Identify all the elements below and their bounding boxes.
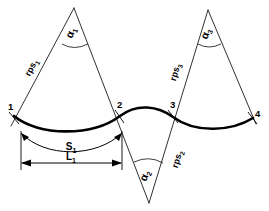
node-label-4: 4	[255, 108, 261, 119]
traverse-diagram-svg: 1 2 3 4 α1 α2 α3 rps1 rps	[0, 0, 269, 211]
sector-3-angle-arc	[198, 44, 221, 47]
sector-2-side-label-group: rps2	[170, 149, 186, 170]
sector-1-angle-arc	[62, 44, 88, 48]
sector-3-side-label: rps3	[168, 62, 184, 83]
l1-left-arrowhead	[21, 160, 31, 167]
sector-1-side-label-group: rps1	[23, 57, 42, 78]
node-2-tick	[115, 110, 124, 123]
node-label-2: 2	[117, 99, 122, 110]
sector-1-side-label: rps1	[23, 57, 42, 78]
sector-3-angle-label: α3	[198, 26, 215, 41]
s1-right-arrowhead	[114, 133, 122, 141]
figure-root: 1 2 3 4 α1 α2 α3 rps1 rps	[0, 0, 269, 211]
sector-3-group	[198, 10, 256, 124]
sector-2-angle-label-group: α2	[137, 168, 154, 183]
sector-1-left-leg	[11, 8, 74, 126]
traverse-curve	[14, 107, 253, 131]
sector-3-angle-label-group: α3	[198, 26, 215, 41]
sector-1-group	[11, 8, 149, 203]
sector-2-side-label: rps2	[170, 149, 186, 170]
s1-left-arrowhead	[21, 133, 29, 141]
sector-3-side-label-group: rps3	[168, 62, 184, 83]
sector-2-angle-arc	[134, 159, 163, 163]
node-ticks	[9, 110, 257, 124]
sector-1-angle-label-group: α1	[63, 25, 80, 40]
sector-2-angle-label: α2	[137, 168, 154, 183]
sector-1-angle-label: α1	[63, 25, 80, 40]
l1-right-arrowhead	[112, 160, 122, 167]
sector-2-right-leg	[149, 10, 208, 203]
node-label-1: 1	[8, 101, 14, 112]
node-label-3: 3	[170, 99, 175, 110]
sector-3-right-leg	[208, 10, 256, 124]
